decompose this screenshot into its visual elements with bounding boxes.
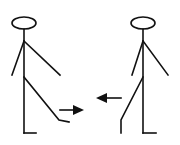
left-figure-left-arm [12,41,24,75]
left-figure-head [12,17,36,29]
right-figure-kicking-leg [121,77,143,133]
diagram-canvas [0,0,180,145]
left-stick-figure [12,17,69,133]
right-arrow-icon [60,105,84,115]
right-figure-right-arm [143,41,168,75]
right-stick-figure [121,17,168,133]
left-figure-kicking-leg [24,77,69,122]
right-figure-head [131,17,155,29]
left-figure-right-arm [24,41,60,75]
left-arrow-icon [96,93,121,103]
right-figure-left-arm [132,41,143,75]
